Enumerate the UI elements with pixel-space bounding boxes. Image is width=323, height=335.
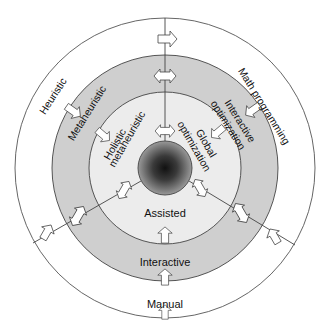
label-manual: Manual [147, 298, 183, 310]
concentric-optimization-diagram: Assisted Interactive Manual Heuristic Me… [0, 0, 323, 335]
label-assisted: Assisted [144, 207, 186, 219]
core-circle [138, 141, 192, 195]
label-interactive: Interactive [140, 256, 191, 268]
